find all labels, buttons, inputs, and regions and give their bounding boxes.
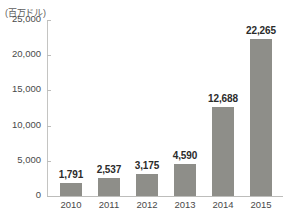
y-tick-label: 5,000: [0, 154, 41, 165]
bar: [174, 164, 196, 196]
bar: [250, 39, 272, 196]
bar-slot: 4,590: [166, 20, 204, 196]
bar-slot: 3,175: [128, 20, 166, 196]
bar-slot: 22,265: [242, 20, 280, 196]
y-tick-mark: [47, 126, 51, 127]
bar-value-label: 2,537: [97, 164, 122, 175]
y-tick-label: 25,000: [0, 13, 41, 24]
y-tick-mark: [47, 196, 51, 197]
bar: [98, 178, 120, 196]
bar-chart: (百万ドル) 05,00010,00015,00020,00025,000 1,…: [0, 0, 283, 220]
x-axis-category-label: 2014: [204, 199, 242, 210]
bar-value-label: 12,688: [208, 93, 238, 104]
bar: [212, 107, 234, 196]
x-axis-category-label: 2010: [52, 199, 90, 210]
bar-value-label: 4,590: [173, 150, 198, 161]
y-tick-mark: [47, 20, 51, 21]
y-tick-mark: [47, 161, 51, 162]
y-tick-label: 10,000: [0, 119, 41, 130]
x-axis-category-label: 2015: [242, 199, 280, 210]
x-axis-line: [47, 196, 283, 197]
x-axis-category-label: 2012: [128, 199, 166, 210]
bar-value-label: 3,175: [135, 160, 160, 171]
y-tick-mark: [47, 55, 51, 56]
bar-value-label: 22,265: [246, 25, 276, 36]
bar: [60, 183, 82, 196]
y-tick-label: 20,000: [0, 48, 41, 59]
bar-slot: 12,688: [204, 20, 242, 196]
bar-slot: 1,791: [52, 20, 90, 196]
y-tick-label: 15,000: [0, 83, 41, 94]
bar-slot: 2,537: [90, 20, 128, 196]
bar: [136, 174, 158, 196]
y-tick-mark: [47, 90, 51, 91]
x-axis-category-label: 2013: [166, 199, 204, 210]
y-axis-line: [47, 20, 48, 197]
x-axis-category-label: 2011: [90, 199, 128, 210]
bar-value-label: 1,791: [59, 169, 84, 180]
y-tick-label: 0: [0, 189, 41, 200]
